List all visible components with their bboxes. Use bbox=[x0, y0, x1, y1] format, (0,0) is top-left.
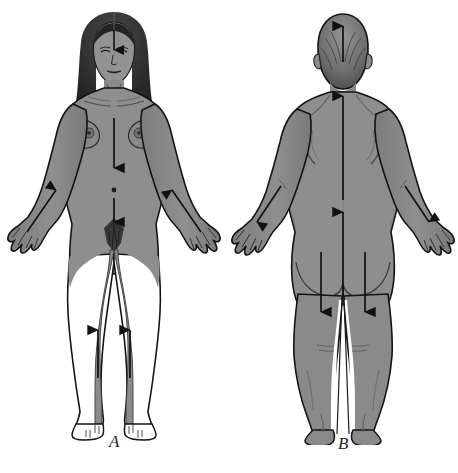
panel-posterior-view: B bbox=[229, 0, 458, 473]
umbilicus bbox=[112, 188, 117, 193]
panel-label-b: B bbox=[229, 434, 458, 454]
anterior-figure-illustration bbox=[0, 0, 229, 445]
right-nipple bbox=[137, 131, 141, 135]
posterior-figure-illustration bbox=[229, 0, 458, 445]
panel-label-a: A bbox=[0, 432, 229, 452]
panel-anterior-view: A bbox=[0, 0, 229, 473]
anatomical-figure-diagram: Anterior and posterior body views with d… bbox=[0, 0, 458, 473]
anterior-legs-group bbox=[68, 246, 161, 440]
posterior-legs-group bbox=[294, 294, 393, 445]
left-nipple bbox=[87, 131, 91, 135]
